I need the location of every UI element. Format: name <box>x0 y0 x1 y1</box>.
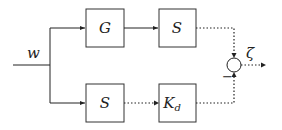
arrowhead-top-junction <box>232 53 237 58</box>
block-S-top-label: S <box>172 19 182 37</box>
block-Kd: Kd <box>159 84 196 122</box>
block-S-bottom: S <box>86 84 124 122</box>
block-diagram: w G S S Kd − ζ <box>0 0 282 130</box>
dotted-path-top <box>196 28 234 56</box>
summing-junction <box>227 58 241 72</box>
block-S-top: S <box>159 9 196 47</box>
arrowhead-to-Kd <box>154 101 159 106</box>
output-label-zeta: ζ <box>246 44 255 62</box>
block-G: G <box>86 9 124 47</box>
arrowhead-output <box>261 63 266 68</box>
input-label-w: w <box>27 44 40 62</box>
block-S-bottom-label: S <box>100 94 110 112</box>
block-G-label: G <box>99 19 111 37</box>
